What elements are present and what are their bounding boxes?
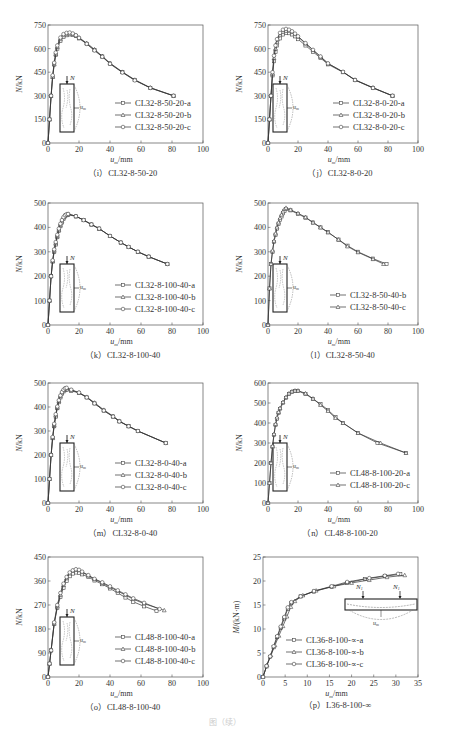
x-tick-label: 60 (137, 505, 145, 514)
legend-label: CL36-8-100-∝-c (306, 659, 363, 669)
chart-j: 0204060801000150300450600750um/mmN/kNNum… (235, 21, 424, 178)
x-tick-label: 100 (412, 327, 424, 336)
y-axis-label: N/kN (15, 434, 24, 453)
x-tick-label: 40 (106, 145, 114, 154)
y-tick-label: 600 (34, 45, 46, 54)
legend-label: CL48-8-100-40-c (135, 656, 195, 666)
y-tick-label: 300 (34, 248, 46, 257)
x-tick-label: 20 (75, 145, 83, 154)
x-tick-label: 40 (106, 679, 114, 688)
legend-label: CL32-8-0-20-b (353, 110, 405, 120)
svg-text:N: N (282, 254, 288, 262)
x-tick-label: 80 (168, 327, 176, 336)
legend-label: CL32-8-100-40-a (135, 280, 195, 290)
legend: CL48-8-100-20-aCL48-8-100-20-c (330, 468, 410, 490)
y-tick-label: 90 (38, 649, 46, 658)
y-tick-label: 500 (34, 379, 46, 388)
y-tick-label: 20 (253, 577, 261, 586)
y-tick-label: 10 (253, 625, 261, 634)
y-tick-label: 150 (254, 115, 266, 124)
x-axis-label: um/mm (110, 155, 133, 165)
y-tick-label: 400 (254, 223, 266, 232)
y-tick-label: 0 (262, 321, 266, 330)
y-tick-label: 360 (34, 577, 46, 586)
legend-label: CL48-8-100-20-a (350, 468, 410, 478)
chart-caption: （o）CL48-8-100-40 (85, 702, 161, 712)
x-tick-label: 0 (46, 327, 50, 336)
y-tick-label: 0 (257, 673, 261, 682)
x-axis-label: um/mm (110, 515, 133, 525)
x-tick-label: 40 (324, 505, 332, 514)
legend: CL32-8-0-20-aCL32-8-0-20-bCL32-8-0-20-c (333, 98, 405, 132)
y-tick-label: 0 (42, 321, 46, 330)
chart-o: 020406080100090180270360450um/mmN/kNNumC… (15, 553, 209, 712)
y-tick-label: 750 (254, 21, 266, 30)
x-tick-label: 25 (370, 679, 378, 688)
x-tick-label: 60 (354, 505, 362, 514)
x-tick-label: 60 (137, 145, 145, 154)
y-tick-label: 15 (253, 601, 261, 610)
charts-svg: 0204060801000150300450600750um/mmN/kNNum… (0, 0, 450, 730)
y-tick-label: 200 (254, 459, 266, 468)
y-axis-label: N/kN (15, 255, 24, 274)
y-tick-label: 300 (254, 92, 266, 101)
svg-text:um: um (293, 463, 299, 470)
legend: CL36-8-100-∝-aCL36-8-100-∝-bCL36-8-100-∝… (286, 635, 364, 669)
y-tick-label: 270 (34, 601, 46, 610)
y-tick-label: 100 (34, 297, 46, 306)
legend-label: CL36-8-100-∝-a (306, 635, 363, 645)
x-tick-label: 100 (197, 505, 209, 514)
chart-m: 0204060801000100200300400500um/mmN/kNNum… (15, 379, 209, 538)
y-tick-label: 300 (34, 427, 46, 436)
chart-caption: （l）CL32-8-50-40 (305, 350, 374, 360)
x-axis-label: um/mm (328, 155, 351, 165)
x-tick-label: 15 (325, 679, 333, 688)
y-tick-label: 200 (34, 272, 46, 281)
x-axis-label: um/mm (110, 337, 133, 347)
svg-text:um: um (293, 284, 299, 291)
legend-label: CL32-8-0-20-c (353, 122, 405, 132)
legend-label: CL32-8-50-40-c (350, 302, 406, 312)
x-tick-label: 60 (354, 327, 362, 336)
x-tick-label: 100 (412, 505, 424, 514)
x-tick-label: 40 (106, 505, 114, 514)
legend-label: CL32-8-0-40-c (135, 482, 187, 492)
chart-caption: （n）CL48-8-100-20 (302, 528, 378, 538)
x-tick-label: 20 (75, 679, 83, 688)
chart-l: 0204060801000100200300400500um/mmN/kNNum… (235, 199, 424, 360)
y-tick-label: 180 (34, 625, 46, 634)
x-tick-label: 20 (75, 327, 83, 336)
y-tick-label: 400 (34, 223, 46, 232)
x-tick-label: 80 (168, 505, 176, 514)
y-axis-label: N/kN (235, 434, 244, 453)
legend-label: CL48-8-100-20-c (350, 480, 410, 490)
x-tick-label: 0 (46, 679, 50, 688)
y-axis-label: N/kN (235, 255, 244, 274)
y-tick-label: 200 (254, 272, 266, 281)
y-tick-label: 0 (262, 499, 266, 508)
chart-caption: （m）CL32-8-0-40 (88, 528, 157, 538)
y-tick-label: 600 (254, 379, 266, 388)
svg-text:N: N (282, 74, 288, 82)
x-axis-label: um/mm (328, 515, 351, 525)
svg-text:N: N (69, 607, 75, 615)
x-tick-label: 0 (266, 145, 270, 154)
x-tick-label: 0 (46, 145, 50, 154)
chart-k: 0204060801000100200300400500um/mmN/kNNum… (15, 199, 209, 360)
y-tick-label: 0 (262, 139, 266, 148)
legend: CL32-8-100-40-aCL32-8-100-40-bCL32-8-100… (115, 280, 195, 314)
svg-text:um: um (80, 637, 86, 644)
y-tick-label: 750 (34, 21, 46, 30)
x-tick-label: 5 (283, 679, 287, 688)
y-tick-label: 600 (254, 45, 266, 54)
chart-caption: （p）L36-8-100-∞ (304, 700, 372, 710)
legend-label: CL32-8-0-40-a (135, 458, 187, 468)
y-tick-label: 400 (34, 403, 46, 412)
legend-label: CL32-8-0-20-a (353, 98, 405, 108)
y-tick-label: 500 (254, 199, 266, 208)
y-axis-label: M/(kN·m) (232, 600, 241, 634)
x-tick-label: 20 (348, 679, 356, 688)
legend-label: CL32-8-50-20-c (135, 122, 191, 132)
y-axis-label: N/kN (235, 75, 244, 94)
x-tick-label: 100 (197, 679, 209, 688)
